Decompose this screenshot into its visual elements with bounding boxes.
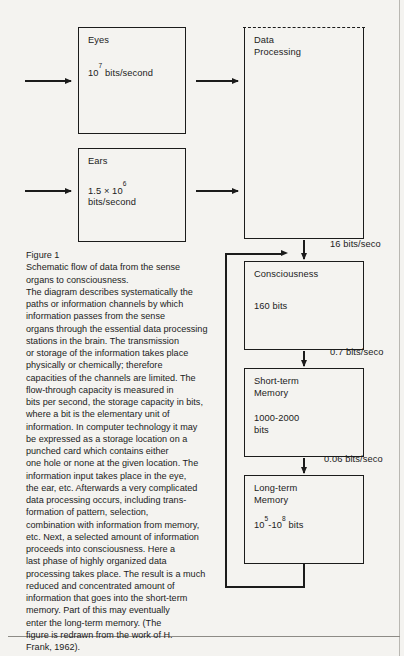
- arrow-eyes-to-data-processing: [196, 80, 238, 82]
- box-short-term-memory: Short-term Memory 1000-2000 bits: [244, 368, 364, 457]
- arrow-short-term-to-long-term: [303, 458, 305, 473]
- feedback-loop-segment-up: [225, 253, 227, 588]
- box-consciousness-value: 160 bits: [254, 301, 354, 313]
- feedback-loop-arrowhead: [281, 250, 288, 256]
- box-long-term-prefix: 10: [254, 520, 265, 530]
- arrow-input-to-eyes: [25, 80, 71, 82]
- figure-caption: Figure 1Schematic flow of data from the …: [26, 249, 216, 653]
- box-eyes-mantissa: 10: [88, 68, 99, 78]
- box-ears-unit: bits/second: [88, 197, 136, 207]
- box-long-term-exponent-low: 5: [265, 515, 269, 522]
- box-data-processing-title: Data Processing: [254, 34, 354, 58]
- box-data-processing: Data Processing: [244, 27, 364, 239]
- box-ears-prefix: 1.5 × 10: [88, 186, 123, 196]
- box-eyes-exponent: 7: [99, 62, 103, 69]
- figure-label: Figure 1: [26, 249, 216, 261]
- box-ears-value: 1.5 × 106 bits/second: [88, 186, 176, 209]
- box-long-term-memory: Long-term Memory 105-108 bits: [244, 475, 364, 564]
- figure-caption-lead: Schematic flow of data from the sense or…: [26, 261, 216, 286]
- box-short-term-memory-title: Short-term Memory: [254, 376, 354, 399]
- box-long-term-memory-value: 105-108 bits: [254, 520, 354, 532]
- arrow-ears-to-data-processing: [196, 190, 238, 192]
- rate-label-data-processing: 16 bits/seco: [330, 239, 381, 250]
- arrow-input-to-ears: [25, 190, 71, 192]
- page-edge-rule-right: [399, 0, 400, 656]
- feedback-loop-segment-bottom: [225, 586, 305, 588]
- box-eyes: Eyes 107 bits/second: [78, 27, 186, 134]
- feedback-loop-segment-down: [303, 564, 305, 588]
- arrow-consciousness-to-short-term: [303, 351, 305, 366]
- box-long-term-memory-title: Long-term Memory: [254, 483, 354, 506]
- figure-caption-body: The diagram describes systematically the…: [26, 286, 216, 654]
- arrow-data-processing-to-consciousness: [303, 240, 305, 259]
- box-long-term-suffix: bits: [286, 520, 304, 530]
- box-ears-title: Ears: [88, 156, 176, 168]
- box-eyes-value: 107 bits/second: [88, 68, 176, 80]
- box-eyes-title: Eyes: [88, 35, 176, 47]
- box-consciousness-title: Consciousness: [254, 269, 354, 281]
- box-short-term-memory-value: 1000-2000 bits: [254, 413, 354, 436]
- feedback-loop-segment-top: [225, 253, 283, 255]
- box-long-term-mid: -10: [268, 520, 282, 530]
- box-ears-exponent: 6: [123, 180, 127, 187]
- box-ears: Ears 1.5 × 106 bits/second: [78, 148, 186, 242]
- box-long-term-exponent-high: 8: [282, 515, 286, 522]
- box-eyes-unit: bits/second: [102, 68, 153, 78]
- figure-page: Eyes 107 bits/second Ears 1.5 × 106 bits…: [0, 0, 404, 656]
- box-consciousness: Consciousness 160 bits: [244, 261, 364, 350]
